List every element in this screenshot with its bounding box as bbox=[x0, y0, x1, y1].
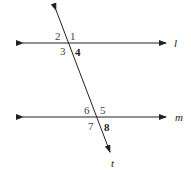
label-m: m bbox=[175, 111, 183, 123]
angle-3: 3 bbox=[60, 45, 66, 57]
parallel-lines-diagram: l m t 2 1 3 4 6 5 7 8 bbox=[0, 0, 191, 170]
angle-4: 4 bbox=[75, 46, 81, 58]
angle-6: 6 bbox=[84, 104, 90, 116]
angle-1: 1 bbox=[70, 30, 76, 42]
angle-5: 5 bbox=[100, 104, 106, 116]
angle-7: 7 bbox=[88, 120, 94, 132]
angle-2: 2 bbox=[55, 30, 61, 42]
line-t bbox=[56, 10, 110, 152]
label-t: t bbox=[111, 157, 115, 169]
angle-8: 8 bbox=[104, 121, 110, 133]
label-l: l bbox=[174, 37, 177, 49]
